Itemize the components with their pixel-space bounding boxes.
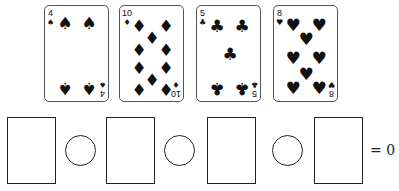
operator-circle-2[interactable] xyxy=(164,135,195,166)
operator-circle-1[interactable] xyxy=(65,135,96,166)
equation-result: = 0 xyxy=(370,142,395,158)
card-index-bottom: 8♥ xyxy=(328,80,335,98)
answer-box-4[interactable] xyxy=(314,117,363,184)
answer-box-3[interactable] xyxy=(207,117,256,184)
diamond-icon: ♦ xyxy=(158,42,173,59)
card-index-bottom: 10♦ xyxy=(171,80,181,98)
club-icon: ♣ xyxy=(234,18,249,35)
card-8-hearts: 8♥ ♥ ♥ ♥ ♥ ♥ ♥ ♥ ♥ 8♥ xyxy=(273,5,338,102)
club-icon: ♣ xyxy=(222,46,237,63)
spade-icon: ♠ xyxy=(57,15,72,32)
diamond-icon: ♦ xyxy=(158,18,173,35)
spade-icon: ♠ xyxy=(81,15,96,32)
card-4-spades: 4♠ ♠ ♠ ♠ ♠ 4♠ xyxy=(44,5,109,102)
spade-icon: ♠ xyxy=(81,80,96,97)
heart-icon: ♥ xyxy=(311,80,326,97)
diamond-icon: ♦ xyxy=(131,42,146,59)
club-icon: ♣ xyxy=(209,18,224,35)
card-index-top: 8♥ xyxy=(276,9,283,27)
card-10-diamonds: 10♦ ♦ ♦ ♦ ♦ ♦ ♦ ♦ ♦ ♦ ♦ 10♦ xyxy=(119,5,184,102)
answer-box-2[interactable] xyxy=(106,117,155,184)
club-icon: ♣ xyxy=(234,80,249,97)
club-icon: ♣ xyxy=(209,80,224,97)
diamond-icon: ♦ xyxy=(131,82,146,99)
heart-icon: ♥ xyxy=(285,80,300,97)
card-index-bottom: 5♣ xyxy=(251,80,258,98)
card-5-clubs: 5♣ ♣ ♣ ♣ ♣ ♣ 5♣ xyxy=(196,5,261,102)
spade-icon: ♠ xyxy=(57,80,72,97)
card-index-bottom: 4♠ xyxy=(99,80,106,98)
heart-icon: ♥ xyxy=(311,17,326,34)
answer-box-1[interactable] xyxy=(7,117,56,184)
diamond-icon: ♦ xyxy=(158,60,173,77)
operator-circle-3[interactable] xyxy=(272,135,303,166)
heart-icon: ♥ xyxy=(298,31,313,48)
card-index-top: 4♠ xyxy=(47,9,54,27)
card-index-top: 5♣ xyxy=(199,9,206,27)
diamond-icon: ♦ xyxy=(144,72,159,89)
diamond-icon: ♦ xyxy=(144,30,159,47)
heart-icon: ♥ xyxy=(311,50,326,67)
